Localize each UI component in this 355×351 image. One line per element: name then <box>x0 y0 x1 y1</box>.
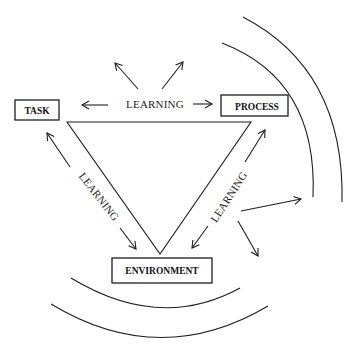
arrow-left-to-environment-icon <box>120 228 136 249</box>
learning-triangle-diagram: TASK PROCESS ENVIRONMENT LEARNING LEARNI… <box>0 0 355 351</box>
node-process: PROCESS <box>221 95 288 116</box>
arrow-left-to-task-icon <box>47 133 70 167</box>
arrow-outward-down-icon <box>238 221 258 256</box>
arrow-right-to-environment-icon <box>192 226 208 248</box>
arrow-up-left-icon <box>115 63 138 89</box>
node-process-label: PROCESS <box>235 102 279 112</box>
arrow-outward-right-icon <box>241 199 301 211</box>
node-environment: ENVIRONMENT <box>112 258 212 283</box>
outer-arc-bottom <box>51 304 268 338</box>
node-task-label: TASK <box>24 106 50 116</box>
edge-right-label: LEARNING <box>208 169 250 224</box>
node-task: TASK <box>15 100 59 120</box>
edge-left-label: LEARNING <box>77 170 122 223</box>
arrow-up-right-icon <box>162 62 183 89</box>
edge-top-label: LEARNING <box>126 98 184 110</box>
node-environment-label: ENVIRONMENT <box>125 266 199 276</box>
arrow-right-to-process-icon <box>245 130 265 162</box>
